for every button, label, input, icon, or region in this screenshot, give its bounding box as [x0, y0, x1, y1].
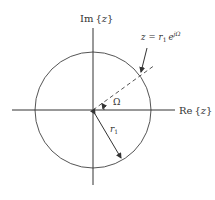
complex-plane-diagram: Im{z} Re{z} z=r1ejΩ Ω r1: [0, 0, 215, 200]
radius-arrow: [95, 114, 121, 158]
point-label: z=r1ejΩ: [140, 30, 180, 43]
real-axis-label: Re{z}: [179, 105, 212, 116]
radius-label: r1: [110, 124, 118, 135]
angle-label: Ω: [113, 97, 120, 107]
imaginary-axis-label: Im{z}: [80, 13, 113, 24]
angle-arc: [102, 104, 104, 111]
point-pointer: [141, 48, 147, 72]
angle-ray: [93, 65, 155, 110]
